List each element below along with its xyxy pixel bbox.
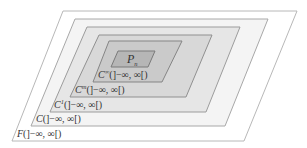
label-c: C(]−∞, ∞[) <box>36 113 81 125</box>
label-f: F(]−∞, ∞[) <box>16 128 61 140</box>
nested-spaces-diagram: F(]−∞, ∞[)C(]−∞, ∞[)C1(]−∞, ∞[)Cm(]−∞, ∞… <box>0 0 307 148</box>
